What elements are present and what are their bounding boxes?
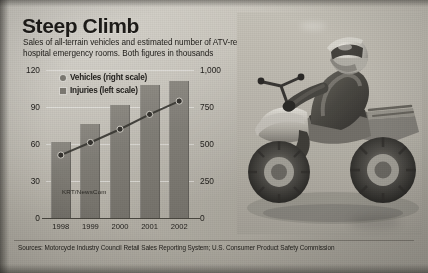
line-point-1998 <box>58 152 64 158</box>
photo-credit: KRT/NewsCom <box>62 188 107 195</box>
legend-label-vehicles: Vehicles (right scale) <box>70 73 147 82</box>
left-tick-90: 90 <box>31 102 40 112</box>
left-tick-60: 60 <box>31 139 40 149</box>
left-tick-30: 30 <box>31 176 40 186</box>
right-tick-0: 0 <box>200 213 205 223</box>
scan-edge-bottom <box>0 264 428 273</box>
line-point-1999 <box>87 139 93 145</box>
line-point-2000 <box>117 126 123 132</box>
line-point-2001 <box>147 111 153 117</box>
right-tick-500: 500 <box>200 139 214 149</box>
x-label-2002: 2002 <box>171 222 188 231</box>
legend-item-injuries: Injuries (left scale) <box>60 85 147 96</box>
x-label-1998: 1998 <box>52 222 69 231</box>
right-tick-750: 750 <box>200 102 214 112</box>
right-tick-250: 250 <box>200 176 214 186</box>
legend-label-injuries: Injuries (left scale) <box>70 86 138 95</box>
x-label-1999: 1999 <box>82 222 99 231</box>
chart-legend: Vehicles (right scale) Injuries (left sc… <box>60 72 147 98</box>
axis-baseline <box>42 218 200 219</box>
left-tick-0: 0 <box>35 213 40 223</box>
x-label-2000: 2000 <box>112 222 129 231</box>
atv-photo-illustration <box>237 12 422 234</box>
source-note: Sources: Motorcycle Industry Council Ret… <box>18 244 420 251</box>
left-tick-120: 120 <box>26 65 40 75</box>
scan-edge-left <box>0 0 9 273</box>
square-marker-icon <box>60 88 66 94</box>
x-label-2001: 2001 <box>141 222 158 231</box>
right-tick-1000: 1,000 <box>200 65 221 75</box>
legend-item-vehicles: Vehicles (right scale) <box>60 72 147 83</box>
circle-marker-icon <box>60 75 66 81</box>
scan-edge-top <box>0 0 428 7</box>
line-point-2002 <box>176 98 182 104</box>
newspaper-chart-clipping: Steep Climb Sales of all-terrain vehicle… <box>0 0 428 273</box>
chart-title: Steep Climb <box>22 14 139 38</box>
atv-rider-photo <box>237 12 422 234</box>
source-divider <box>14 240 414 241</box>
